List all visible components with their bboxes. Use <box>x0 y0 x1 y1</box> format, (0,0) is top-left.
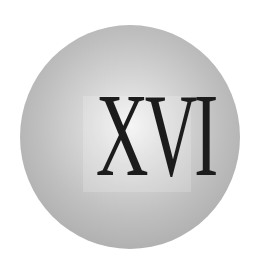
roman-numeral: XVI <box>96 82 167 190</box>
emblem-canvas: XVI <box>0 0 262 268</box>
